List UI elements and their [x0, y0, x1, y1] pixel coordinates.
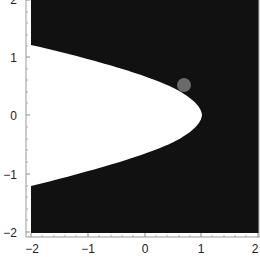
y-tick-label: −1 [3, 168, 17, 182]
x-tick-label: 1 [198, 242, 205, 256]
x-tick-label: −1 [81, 242, 95, 256]
y-tick-label: −2 [3, 226, 17, 240]
y-tick-label: 0 [10, 109, 17, 123]
data-point [177, 78, 191, 92]
y-tick-label: 1 [10, 51, 17, 65]
region-plot: 2 1 0 −1 −2 −2 −1 0 1 2 [0, 0, 260, 257]
x-tick-label: 0 [142, 242, 149, 256]
x-tick-label: 2 [252, 242, 259, 256]
y-tick-label: 2 [10, 0, 17, 7]
x-tick-label: −2 [25, 242, 39, 256]
